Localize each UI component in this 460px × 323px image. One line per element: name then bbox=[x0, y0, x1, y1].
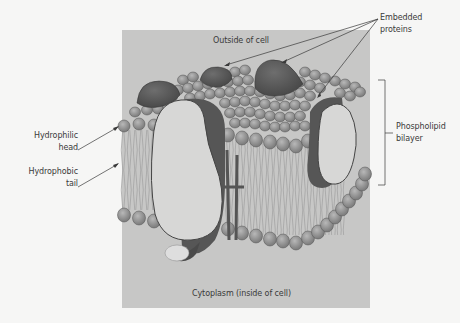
membrane-illustration bbox=[0, 0, 460, 323]
label-hydrophobic-tail: Hydrophobic tail bbox=[12, 166, 78, 190]
protein-right bbox=[307, 97, 356, 188]
protein-top-middle bbox=[200, 67, 232, 87]
label-embedded-proteins: Embedded proteins bbox=[380, 12, 422, 36]
protein-large-left bbox=[151, 99, 225, 261]
label-phospholipid-bilayer: Phospholipid bilayer bbox=[396, 121, 446, 145]
label-hydrophilic-head: Hydrophilic head bbox=[18, 130, 78, 154]
label-outside-of-cell: Outside of cell bbox=[213, 35, 269, 47]
label-cytoplasm: Cytoplasm (inside of cell) bbox=[192, 288, 291, 300]
